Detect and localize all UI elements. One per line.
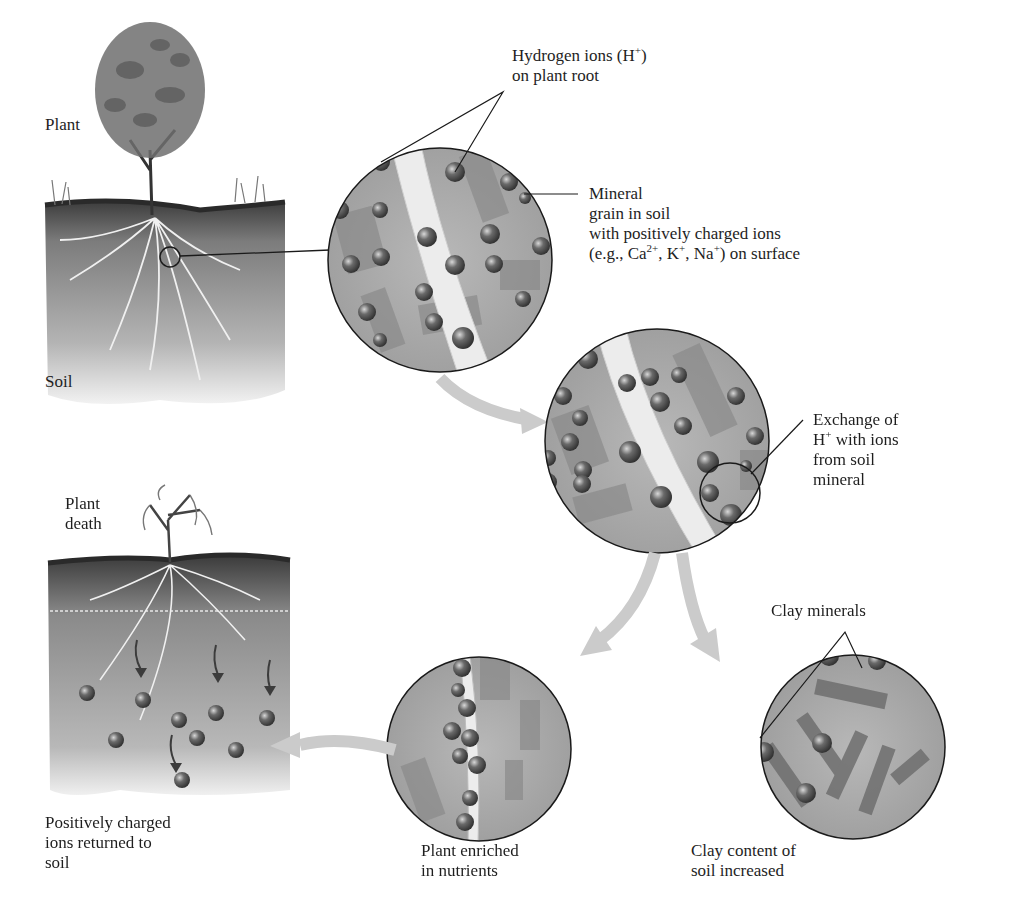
- plant-soil-illustration: [45, 22, 330, 404]
- label-hydrogen-ions: Hydrogen ions (H+) on plant root: [512, 46, 647, 86]
- label-plant-death: Plant death: [65, 494, 102, 534]
- magnified-root-circle: [320, 92, 578, 380]
- flow-arrow: [440, 378, 530, 420]
- flow-arrow: [300, 741, 395, 750]
- flow-arrow: [682, 553, 705, 640]
- label-clay-minerals: Clay minerals: [771, 601, 866, 621]
- label-clay-increased: Clay content of soil increased: [691, 841, 796, 881]
- label-exchange: Exchange of H+ with ions from soil miner…: [813, 410, 899, 490]
- label-mineral-grain: Mineral grain in soil with positively ch…: [589, 184, 800, 264]
- magnified-exchange-circle: [539, 325, 803, 565]
- label-plant-enriched: Plant enriched in nutrients: [421, 841, 519, 881]
- label-plant: Plant: [45, 115, 80, 135]
- magnified-enriched-circle: [385, 640, 575, 845]
- magnified-clay-circle: [725, 632, 950, 845]
- label-soil: Soil: [45, 372, 72, 392]
- flow-arrow: [600, 553, 655, 640]
- label-ions-returned: Positively charged ions returned to soil: [45, 813, 171, 873]
